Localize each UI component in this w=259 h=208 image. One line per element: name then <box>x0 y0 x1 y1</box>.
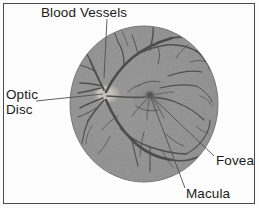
label-fovea: Fovea <box>216 153 254 168</box>
label-optic-disc: Optic Disc <box>6 87 38 117</box>
label-macula-text: Macula <box>186 186 230 201</box>
label-optic-disc-line1: Optic <box>6 87 38 102</box>
label-blood-vessels-text: Blood Vessels <box>41 5 127 20</box>
label-optic-disc-line2: Disc <box>6 102 38 117</box>
label-fovea-text: Fovea <box>216 153 254 168</box>
fundus-illustration <box>0 0 259 208</box>
retina-diagram-figure: Blood Vessels Optic Disc Fovea Macula <box>0 0 259 208</box>
label-macula: Macula <box>186 186 230 201</box>
label-blood-vessels: Blood Vessels <box>41 5 127 20</box>
